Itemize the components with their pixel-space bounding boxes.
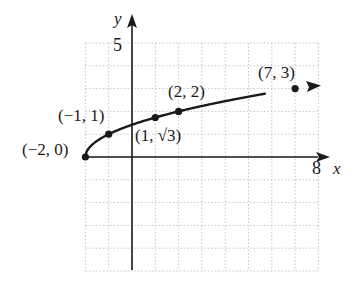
x-tick-8: 8 [312,158,321,178]
point-label-neg2-0: (−2, 0) [22,140,68,159]
point-label-1-sqrt3: (1, √3) [135,126,181,145]
data-point [82,153,89,160]
data-point [152,114,159,121]
x-axis-label: x [332,159,341,178]
point-label-2-2: (2, 2) [168,82,205,101]
data-point [292,85,299,92]
data-point [175,108,182,115]
point-label-7-3: (7, 3) [258,63,295,82]
data-point [105,131,112,138]
point-label-neg1-1: (−1, 1) [58,106,104,125]
y-axis-label: y [112,9,122,28]
function-graph: y 5 8 x (−2, 0) (−1, 1) (1, √3) (2, 2) (… [0,0,363,289]
y-tick-5: 5 [113,35,122,55]
